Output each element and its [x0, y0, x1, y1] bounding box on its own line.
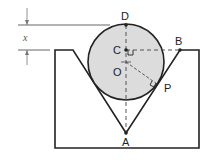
- point-C: [124, 48, 128, 52]
- label-P: P: [164, 82, 171, 94]
- label-A: A: [122, 136, 130, 148]
- point-B: [178, 48, 182, 52]
- label-O: O: [113, 66, 122, 78]
- dim-arrowhead-top: [25, 20, 29, 25]
- v-groove-circle-diagram: D C O B P A x: [0, 0, 212, 161]
- label-D: D: [121, 10, 129, 22]
- label-B: B: [175, 35, 182, 47]
- label-x: x: [22, 32, 28, 43]
- point-D: [124, 23, 128, 27]
- label-C: C: [113, 44, 121, 56]
- point-A: [124, 131, 128, 135]
- dim-arrowhead-bottom: [25, 50, 29, 55]
